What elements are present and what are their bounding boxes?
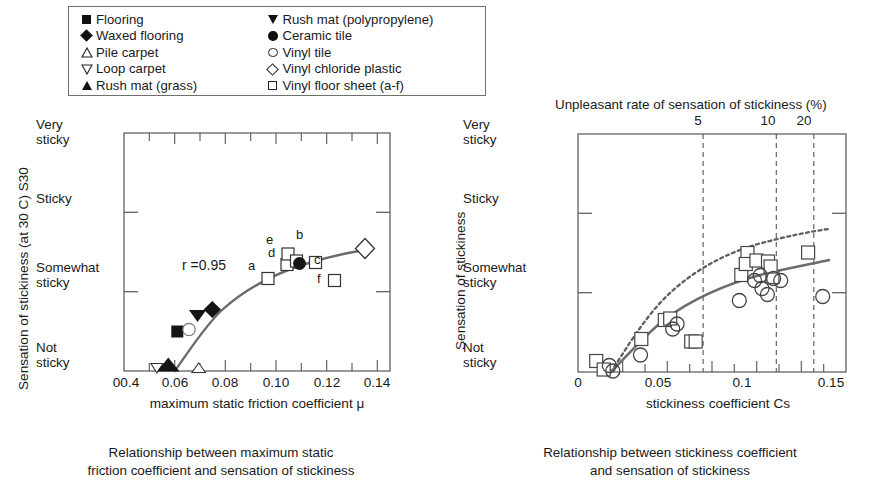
right-xtick-3: 0.15 <box>809 375 853 390</box>
left-correlation-annotation: r =0.95 <box>182 257 226 273</box>
left-xtick-3: 0.10 <box>254 375 298 390</box>
right-top-axis-title: Unpleasant rate of sensation of stickine… <box>555 97 827 112</box>
left-ytick-sticky: Sticky <box>36 192 72 207</box>
left-point-label-f: f <box>317 271 321 286</box>
datapoint-vinyl-sheet-a <box>262 273 274 285</box>
datapoint-ceramic-tile <box>293 257 306 270</box>
right-chart-panel: Unpleasant rate of sensation of stickine… <box>440 0 884 491</box>
right-ytick-sticky: Sticky <box>463 192 499 207</box>
left-plot-area <box>112 122 402 382</box>
right-plot-area <box>568 122 868 382</box>
left-point-label-e: e <box>266 232 273 247</box>
left-xtick-0: 00.4 <box>104 375 148 390</box>
right-ytick-very-sticky: Verysticky <box>463 118 496 147</box>
right-xtick-1: 0.05 <box>636 375 680 390</box>
left-point-label-c: c <box>314 252 321 267</box>
left-point-label-a: a <box>248 258 255 273</box>
left-point-label-b: b <box>296 227 303 242</box>
left-chart-caption: Relationship between maximum static fric… <box>26 444 416 480</box>
left-xtick-4: 0.12 <box>305 375 349 390</box>
left-ytick-not-sticky: Notsticky <box>36 341 69 370</box>
right-chart-caption: Relationship between stickiness coeffici… <box>480 444 860 480</box>
left-ytick-very-sticky: Verysticky <box>36 118 69 147</box>
right-x-axis-title: stickiness coefficient Cs <box>568 396 868 411</box>
right-xtick-0: 0 <box>566 375 590 390</box>
left-x-axis-title: maximum static friction coefficient μ <box>112 396 402 411</box>
left-point-label-d: d <box>268 245 275 260</box>
left-xtick-2: 0.08 <box>203 375 247 390</box>
right-ytick-not-sticky: Notsticky <box>463 341 496 370</box>
left-xtick-5: 0.14 <box>355 375 399 390</box>
left-y-axis-title: Sensation of stickiness (at 30 C) S30 <box>16 167 31 390</box>
right-ytick-somewhat-sticky: Somewhatsticky <box>463 261 526 290</box>
left-chart-panel: Sensation of stickiness (at 30 C) S30 Ve… <box>0 0 440 491</box>
datapoint-vinyl-sheet-f <box>329 275 341 287</box>
datapoint-flooring <box>171 326 183 338</box>
right-xtick-2: 0.1 <box>725 375 759 390</box>
left-ytick-somewhat-sticky: Somewhatsticky <box>36 261 99 290</box>
datapoint-vinyl-tile <box>183 323 195 335</box>
left-xtick-1: 0.06 <box>153 375 197 390</box>
